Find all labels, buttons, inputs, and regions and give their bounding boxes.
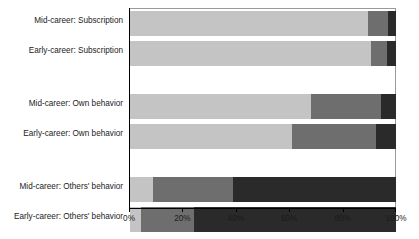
bar-early-career-subscription	[130, 41, 396, 66]
x-axis-tick	[395, 208, 396, 212]
bar-segment	[130, 177, 153, 202]
x-axis-tick	[343, 208, 344, 212]
category-label-mid-career-subscription: Mid-career: Subscription	[34, 16, 123, 26]
x-axis-tick	[182, 208, 183, 212]
x-axis-tick	[289, 208, 290, 212]
bar-segment	[233, 177, 396, 202]
x-axis-tick-label-20: 20%	[174, 214, 190, 223]
bar-segment	[388, 11, 396, 36]
bar-segment	[371, 41, 387, 66]
category-label-mid-career-others-behavior: Mid-career: Others' behavior	[20, 182, 124, 192]
plot-area	[129, 8, 396, 208]
category-label-mid-career-own-behavior: Mid-career: Own behavior	[29, 99, 123, 109]
bar-segment	[387, 41, 396, 66]
category-label-early-career-own-behavior: Early-career: Own behavior	[23, 129, 123, 139]
x-axis-tick	[236, 208, 237, 212]
x-axis-tick-label-0: 0%	[123, 214, 135, 223]
x-axis-tick-label-80: 80%	[334, 214, 350, 223]
bar-segment	[381, 94, 396, 119]
bar-segment	[153, 177, 233, 202]
bar-mid-career-others-behavior	[130, 177, 396, 202]
x-axis-line	[129, 208, 396, 209]
bar-mid-career-own-behavior	[130, 94, 396, 119]
bar-segment	[311, 94, 381, 119]
category-label-early-career-others-behavior: Early-career: Others' behavior	[14, 212, 123, 222]
bar-early-career-own-behavior	[130, 124, 396, 149]
x-axis-tick	[129, 208, 130, 212]
bar-segment	[130, 124, 292, 149]
bar-mid-career-subscription	[130, 11, 396, 36]
bar-segment	[292, 124, 376, 149]
bar-segment	[376, 124, 396, 149]
x-axis-tick-label-60: 60%	[281, 214, 297, 223]
x-axis-tick-label-100: 100%	[386, 214, 407, 223]
bar-segment	[130, 41, 371, 66]
bar-segment	[368, 11, 388, 36]
stacked-bar-chart: Mid-career: Subscription Early-career: S…	[0, 0, 419, 239]
bar-segment	[130, 11, 368, 36]
category-label-column: Mid-career: Subscription Early-career: S…	[0, 0, 127, 200]
x-axis-tick-label-40: 40%	[228, 214, 244, 223]
bar-segment	[130, 94, 311, 119]
category-label-early-career-subscription: Early-career: Subscription	[29, 46, 123, 56]
x-axis: 0% 20% 40% 60% 80% 100%	[129, 208, 396, 239]
